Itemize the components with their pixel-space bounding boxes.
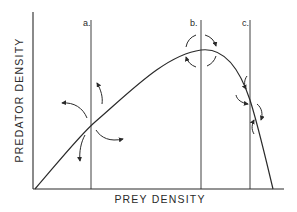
label-b: b. [190,18,198,28]
arrow-a-right-icon [96,130,123,140]
arrows-a [62,83,123,161]
arrow-a-down-icon [80,135,85,161]
arrows-c [236,76,262,134]
arrow-c-left-icon [236,95,248,104]
label-c: c. [242,18,249,28]
label-a: a. [83,18,91,28]
arrow-b-top-right-icon [205,35,216,46]
x-axis-label: PREY DENSITY [114,193,205,205]
arrow-b-bottom-right-icon [207,56,216,66]
y-axis-label: PREDATOR DENSITY [13,38,25,163]
arrow-c-right-icon [257,104,262,120]
arrow-b-bottom-left-icon [186,57,196,67]
arrow-b-top-left-icon [186,35,196,47]
isocline-diagram: a. b. c. PREY DENSITY PREDATOR DENSITY [0,0,297,212]
arrow-a-up-icon [97,83,102,104]
arrow-c-top-icon [245,76,247,89]
arrow-a-left-icon [62,103,87,118]
arrow-c-bottom-icon [252,120,254,134]
prey-isocline-curve [35,50,273,189]
